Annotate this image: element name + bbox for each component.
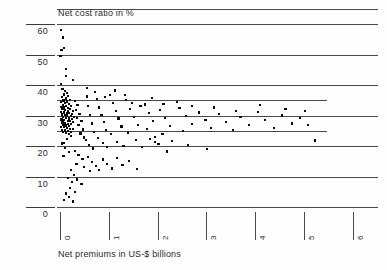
data-point [157, 143, 159, 145]
data-point [111, 167, 113, 169]
data-point [72, 121, 74, 123]
data-point [63, 199, 65, 201]
data-point [182, 130, 184, 132]
data-point [63, 126, 65, 128]
data-point [136, 168, 138, 170]
data-point [61, 96, 63, 98]
data-point [86, 87, 88, 89]
data-point [60, 49, 62, 51]
data-point [69, 187, 71, 189]
data-point [95, 165, 97, 167]
data-point [128, 160, 130, 162]
data-point [281, 114, 283, 116]
data-point [73, 116, 75, 118]
data-point [69, 120, 71, 122]
data-point [74, 100, 76, 102]
data-point [80, 183, 82, 185]
data-point [93, 131, 95, 133]
data-point [149, 138, 151, 140]
data-point [78, 113, 80, 115]
data-point [63, 47, 65, 49]
data-point [154, 136, 156, 138]
data-point [66, 92, 68, 94]
data-point [120, 125, 122, 127]
data-point [239, 116, 241, 118]
data-point [67, 177, 69, 179]
data-point [69, 128, 71, 130]
data-point [127, 131, 129, 133]
x-axis-caption: Net premiums in US-$ billions [58, 249, 181, 259]
data-point [235, 110, 237, 112]
data-point [116, 141, 118, 143]
data-point [96, 98, 98, 100]
data-point [62, 155, 64, 157]
data-point [104, 96, 106, 98]
data-point [70, 123, 72, 125]
data-point [63, 93, 65, 95]
data-point [198, 111, 200, 113]
data-point [204, 119, 206, 121]
data-point [92, 147, 94, 149]
data-point [98, 106, 100, 108]
data-points-group [0, 0, 387, 270]
data-point [70, 135, 72, 137]
data-point [171, 140, 173, 142]
data-point [75, 163, 77, 165]
data-point [299, 117, 301, 119]
data-point [63, 119, 65, 121]
data-point [264, 119, 266, 121]
data-point [71, 118, 73, 120]
data-point [102, 142, 104, 144]
data-point [66, 138, 68, 140]
data-point [71, 181, 73, 183]
data-point [65, 97, 67, 99]
data-point [125, 99, 127, 101]
data-point [166, 150, 168, 152]
data-point [314, 139, 316, 141]
data-point [60, 126, 62, 128]
data-point [94, 91, 96, 93]
data-point [76, 117, 78, 119]
data-point [259, 104, 261, 106]
data-point [284, 108, 286, 110]
data-point [89, 114, 91, 116]
data-point [73, 174, 75, 176]
data-point [76, 178, 78, 180]
data-point [114, 89, 116, 91]
data-point [76, 104, 78, 106]
data-point [87, 105, 89, 107]
data-point [191, 123, 193, 125]
data-point [106, 146, 108, 148]
data-point [109, 94, 111, 96]
data-point [159, 109, 161, 111]
data-point [81, 158, 83, 160]
data-point [151, 97, 153, 99]
data-point [110, 133, 112, 135]
data-point [72, 128, 74, 130]
data-point [137, 124, 139, 126]
data-point [86, 95, 88, 97]
data-point [154, 141, 156, 143]
data-point [185, 115, 187, 117]
data-point [133, 116, 135, 118]
data-point [74, 150, 76, 152]
data-point [88, 144, 90, 146]
data-point [100, 114, 102, 116]
data-point [65, 75, 67, 77]
data-point [191, 105, 193, 107]
data-point [257, 111, 259, 113]
data-point [162, 103, 164, 105]
data-point [64, 147, 66, 149]
data-point [102, 158, 104, 160]
data-point [121, 164, 123, 166]
data-point [291, 122, 293, 124]
data-point [63, 142, 65, 144]
data-point [129, 108, 131, 110]
data-point [112, 102, 114, 104]
data-point [75, 109, 77, 111]
data-point [65, 192, 67, 194]
data-point [60, 83, 62, 85]
data-point [91, 161, 93, 163]
data-point [273, 127, 275, 129]
data-point [139, 105, 141, 107]
